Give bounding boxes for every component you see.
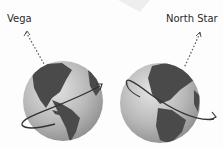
- north-star-label: North Star: [166, 13, 218, 24]
- arrow-head-icon: [24, 31, 30, 36]
- axis-line-north-star: [184, 33, 200, 68]
- precession-diagram: Vega North Star: [0, 0, 223, 148]
- right-earth-globe: [120, 32, 216, 144]
- axis-line-vega: [26, 32, 44, 64]
- vega-label: Vega: [7, 13, 32, 24]
- background-shade: [118, 0, 150, 12]
- left-earth-globe: [22, 31, 103, 142]
